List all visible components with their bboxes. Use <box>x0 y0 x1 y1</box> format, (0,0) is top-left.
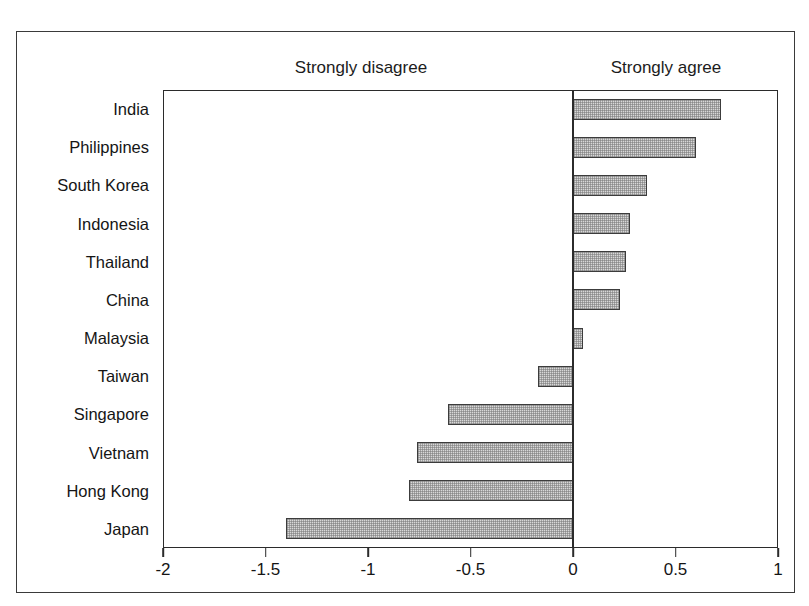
bar <box>573 289 620 310</box>
x-axis-tick-mark <box>777 548 779 557</box>
axis-annotation-strongly-disagree: Strongly disagree <box>295 58 427 78</box>
category-axis-labels: IndiaPhilippinesSouth KoreaIndonesiaThai… <box>0 0 163 606</box>
x-axis-tick-label: -1.5 <box>251 560 280 580</box>
bar <box>538 366 573 387</box>
bar <box>448 404 573 425</box>
bar <box>573 213 630 234</box>
category-label: Indonesia <box>15 214 163 233</box>
category-label: China <box>15 290 163 309</box>
x-axis-tick-mark <box>675 548 677 557</box>
x-axis-tick-label: 0.5 <box>664 560 688 580</box>
x-axis-tick-mark <box>470 548 472 557</box>
category-label: Malaysia <box>15 329 163 348</box>
x-axis-tick-label: -0.5 <box>456 560 485 580</box>
category-label: India <box>15 100 163 119</box>
category-label: Taiwan <box>15 367 163 386</box>
bar <box>573 175 647 196</box>
bar <box>573 137 696 158</box>
x-axis-tick-label: 0 <box>568 560 577 580</box>
bar <box>573 251 626 272</box>
x-axis-tick-mark <box>367 548 369 557</box>
bar <box>409 480 573 501</box>
bar <box>286 518 573 539</box>
bar <box>573 328 583 349</box>
x-axis-tick-label: 1 <box>773 560 782 580</box>
category-label: Vietnam <box>15 443 163 462</box>
category-label: Singapore <box>15 405 163 424</box>
x-axis-tick-label: -2 <box>155 560 170 580</box>
category-label: Thailand <box>15 252 163 271</box>
x-axis-tick-mark <box>265 548 267 557</box>
bar <box>417 442 573 463</box>
category-label: Japan <box>15 519 163 538</box>
category-label: Hong Kong <box>15 481 163 500</box>
figure-panel: Strongly disagree Strongly agree IndiaPh… <box>0 0 809 606</box>
x-axis-tick-mark <box>572 548 574 557</box>
category-label: South Korea <box>15 176 163 195</box>
axis-annotation-strongly-agree: Strongly agree <box>611 58 722 78</box>
x-axis-tick-label: -1 <box>360 560 375 580</box>
bar <box>573 99 721 120</box>
zero-baseline <box>572 90 574 548</box>
x-axis-tick-mark <box>162 548 164 557</box>
category-label: Philippines <box>15 138 163 157</box>
